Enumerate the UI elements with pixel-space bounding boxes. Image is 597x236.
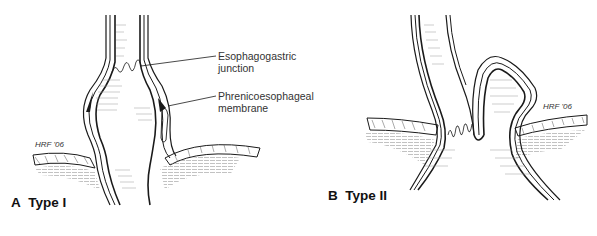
- diaphragm-left-a: [33, 153, 100, 190]
- label-eg-junction: Esophagogastric junction: [218, 50, 296, 74]
- label-eg-junction-line1: Esophagogastric: [218, 50, 296, 62]
- eg-junction-line-b: [448, 124, 472, 137]
- leader-line-eg-junction: [141, 56, 216, 66]
- herniated-fundus-b: [473, 57, 560, 201]
- label-phrenicoesophageal-line2: membrane: [218, 102, 314, 114]
- panel-b-label: B Type II: [328, 188, 387, 203]
- hiatal-hernia-diagram: [0, 0, 597, 236]
- diaphragm-right-b: [515, 115, 587, 160]
- leader-line-phrenicoesophageal: [168, 96, 216, 106]
- panel-b-letter: B: [328, 188, 338, 203]
- diaphragm-left-b: [365, 118, 438, 165]
- artist-signature-a: HRF '06: [35, 140, 64, 149]
- artist-signature-b: HRF '06: [543, 102, 572, 111]
- panel-a-letter: A: [11, 195, 21, 210]
- panel-a-label: A Type I: [11, 195, 66, 210]
- label-phrenicoesophageal-membrane: Phrenicoesophageal membrane: [218, 90, 314, 114]
- esophagus-b: [410, 15, 474, 190]
- panel-a-title: Type I: [28, 195, 66, 210]
- diaphragm-right-a: [160, 145, 260, 190]
- eg-junction-line-a: [112, 60, 141, 73]
- hatch-shading-b: [424, 25, 530, 174]
- label-eg-junction-line2: junction: [218, 62, 296, 74]
- label-phrenicoesophageal-line1: Phrenicoesophageal: [218, 90, 314, 102]
- panel-b-title: Type II: [345, 188, 387, 203]
